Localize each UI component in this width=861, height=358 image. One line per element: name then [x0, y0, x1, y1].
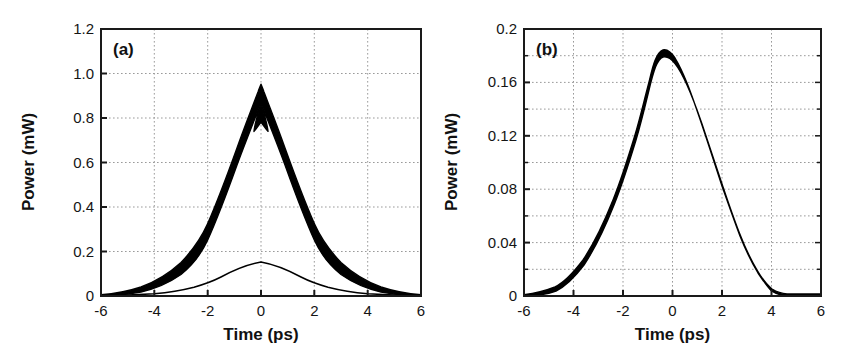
panel-b-plot: 0 0.04 0.08 0.12 0.16 0.2 -6 -4 -2 0 2 4… — [431, 0, 861, 358]
panel-b-ytick-3: 0.12 — [488, 127, 517, 144]
panel-a-ytick-1: 0.2 — [73, 243, 94, 260]
panel-a-xtick-6: 6 — [417, 302, 425, 319]
panel-b-label: (b) — [536, 40, 558, 59]
panel-b-ytick-4: 0.16 — [488, 73, 517, 90]
panel-b-xtick-4: 2 — [718, 302, 726, 319]
panel-a-ytick-4: 0.8 — [73, 109, 94, 126]
panel-a-ytick-6: 1.2 — [73, 20, 94, 37]
panel-a: 0 0.2 0.4 0.6 0.8 1.0 1.2 -6 -4 -2 0 2 4… — [0, 0, 430, 358]
panel-a-xtick-3: 0 — [257, 302, 265, 319]
panel-b-xtick-3: 0 — [668, 302, 676, 319]
panel-b-xtick-6: 6 — [817, 302, 825, 319]
panel-b-yaxis-title: Power (mW) — [442, 113, 461, 211]
panel-b-ytick-1: 0.04 — [488, 234, 517, 251]
panel-b-xtick-5: 4 — [767, 302, 775, 319]
panel-a-xtick-4: 2 — [310, 302, 318, 319]
panel-a-ytick-2: 0.4 — [73, 198, 94, 215]
panel-b-xtick-2: -2 — [616, 302, 629, 319]
figure-two-panel-power-vs-time: 0 0.2 0.4 0.6 0.8 1.0 1.2 -6 -4 -2 0 2 4… — [0, 0, 861, 358]
panel-a-plot: 0 0.2 0.4 0.6 0.8 1.0 1.2 -6 -4 -2 0 2 4… — [0, 0, 430, 358]
panel-b-ytick-5: 0.2 — [496, 20, 517, 37]
panel-a-xtick-0: -6 — [94, 302, 107, 319]
panel-a-xtick-5: 4 — [364, 302, 372, 319]
panel-a-xtick-2: -2 — [201, 302, 214, 319]
panel-a-ytick-0: 0 — [86, 287, 94, 304]
panel-a-ytick-5: 1.0 — [73, 65, 94, 82]
panel-a-xtick-1: -4 — [148, 302, 161, 319]
panel-a-yaxis-title: Power (mW) — [19, 113, 38, 211]
panel-a-ytick-3: 0.6 — [73, 154, 94, 171]
panel-b-ytick-2: 0.08 — [488, 180, 517, 197]
panel-b-xtick-0: -6 — [517, 302, 530, 319]
panel-b-ytick-0: 0 — [509, 287, 517, 304]
panel-b-xtick-1: -4 — [567, 302, 580, 319]
panel-b-xaxis-title: Time (ps) — [635, 325, 710, 344]
panel-a-label: (a) — [113, 40, 134, 59]
panel-a-xaxis-title: Time (ps) — [223, 325, 298, 344]
panel-b: 0 0.04 0.08 0.12 0.16 0.2 -6 -4 -2 0 2 4… — [431, 0, 861, 358]
